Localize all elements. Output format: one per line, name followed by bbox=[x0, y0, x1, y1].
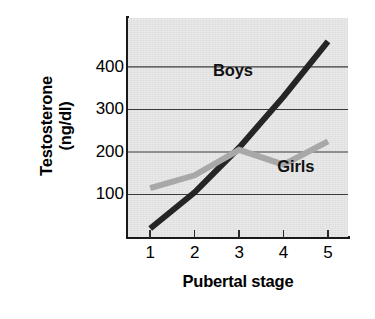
x-tick-mark-2 bbox=[194, 230, 196, 238]
y-tick-label-100: 100 bbox=[72, 185, 124, 202]
x-tick-mark-3 bbox=[238, 230, 240, 238]
x-tick-label-1: 1 bbox=[137, 243, 163, 262]
x-tick-mark-1 bbox=[149, 230, 151, 238]
x-tick-mark-4 bbox=[283, 230, 285, 238]
x-tick-label-2: 2 bbox=[182, 243, 208, 262]
y-tick-label-300: 300 bbox=[72, 100, 124, 117]
x-tick-label-5: 5 bbox=[315, 243, 341, 262]
x-tick-label-3: 3 bbox=[226, 243, 252, 262]
series-label-girls: Girls bbox=[277, 158, 314, 175]
gridlines bbox=[128, 67, 348, 195]
x-tick-mark-5 bbox=[327, 230, 329, 238]
chart-figure: Testosterone (ng/dl) 100200300400 Boys G… bbox=[0, 0, 375, 319]
y-axis-title-line1: Testosterone bbox=[37, 76, 56, 176]
plot-svg bbox=[128, 18, 348, 237]
y-tick-label-group: 100200300400 bbox=[66, 0, 124, 319]
plot-area bbox=[128, 18, 348, 237]
x-tick-label-4: 4 bbox=[271, 243, 297, 262]
x-axis-title: Pubertal stage bbox=[128, 272, 348, 291]
y-tick-label-400: 400 bbox=[72, 58, 124, 75]
y-tick-label-200: 200 bbox=[72, 143, 124, 160]
series-label-boys: Boys bbox=[213, 62, 253, 79]
